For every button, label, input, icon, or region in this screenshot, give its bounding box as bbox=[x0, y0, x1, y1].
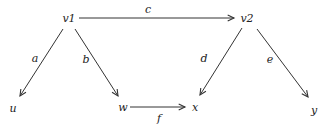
arrowhead-icon bbox=[112, 89, 118, 96]
node-v1: v1 bbox=[62, 13, 75, 24]
node-w: w bbox=[118, 102, 127, 113]
edge-label-d: d bbox=[200, 53, 207, 64]
node-u: u bbox=[9, 103, 16, 114]
arrowhead-icon bbox=[20, 89, 26, 96]
node-v2: v2 bbox=[240, 13, 253, 24]
edge-label-a: a bbox=[32, 53, 39, 64]
node-x: x bbox=[192, 102, 198, 113]
edge-label-c: c bbox=[145, 4, 151, 15]
node-y: y bbox=[311, 105, 317, 116]
edge-label-e: e bbox=[267, 54, 274, 65]
edge-label-b: b bbox=[82, 54, 89, 65]
arrowhead-icon bbox=[200, 88, 206, 95]
edge-label-f: f bbox=[157, 113, 161, 124]
edge-e bbox=[257, 29, 308, 97]
edge-b bbox=[75, 29, 118, 96]
edges-layer bbox=[0, 0, 329, 128]
edge-a bbox=[20, 29, 63, 96]
graph-diagram: v1 v2 u w x y c a b d e f bbox=[0, 0, 329, 128]
